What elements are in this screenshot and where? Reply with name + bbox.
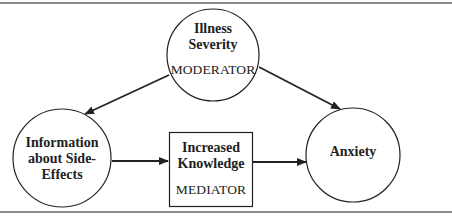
- mediator-role-label: MEDIATOR: [170, 182, 252, 198]
- moderator-role-label: MODERATOR: [167, 62, 259, 78]
- illness-severity-title-line-1: Illness: [167, 21, 259, 37]
- information-title-line-1: Information: [14, 135, 110, 151]
- increased-knowledge-label: Increased Knowledge MEDIATOR: [170, 140, 252, 198]
- diagram-canvas: Illness Severity MODERATOR Information a…: [0, 0, 452, 218]
- knowledge-title-line-2: Knowledge: [170, 156, 252, 172]
- knowledge-title-line-1: Increased: [170, 140, 252, 156]
- illness-severity-label: Illness Severity MODERATOR: [167, 21, 259, 78]
- arrow-moderator-to-information: [85, 75, 169, 114]
- anxiety-title: Anxiety: [306, 144, 400, 160]
- illness-severity-title-line-2: Severity: [167, 37, 259, 53]
- information-title-line-2: about Side-: [14, 151, 110, 167]
- information-side-effects-label: Information about Side- Effects: [14, 135, 110, 183]
- information-title-line-3: Effects: [14, 167, 110, 183]
- anxiety-label: Anxiety: [306, 144, 400, 160]
- arrow-moderator-to-anxiety: [259, 67, 340, 109]
